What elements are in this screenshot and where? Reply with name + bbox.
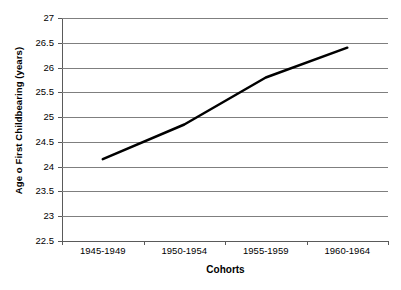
y-tick-label: 26 [14, 63, 54, 73]
plot-area [62, 18, 388, 241]
y-tick-label: 24.5 [14, 137, 54, 147]
x-tick-label: 1945-1949 [62, 245, 144, 256]
y-tick-label: 25 [14, 112, 54, 122]
series-line-group [62, 18, 388, 241]
y-tick-label: 22.5 [14, 236, 54, 246]
y-tick-label: 24 [14, 162, 54, 172]
y-tick-label: 23.5 [14, 186, 54, 196]
y-tick-label: 27 [14, 13, 54, 23]
y-tick-label: 23 [14, 211, 54, 221]
x-tick-label: 1955-1959 [225, 245, 307, 256]
x-tick-label: 1960-1964 [306, 245, 388, 256]
x-axis-title: Cohorts [62, 264, 389, 275]
line-chart: Age o First Childbearing (years) 2726.52… [0, 0, 401, 290]
y-tick-label: 26.5 [14, 38, 54, 48]
y-tick-label: 25.5 [14, 87, 54, 97]
x-tick-label: 1950-1954 [143, 245, 225, 256]
series-line-age-at-first-childbearing [103, 48, 347, 160]
